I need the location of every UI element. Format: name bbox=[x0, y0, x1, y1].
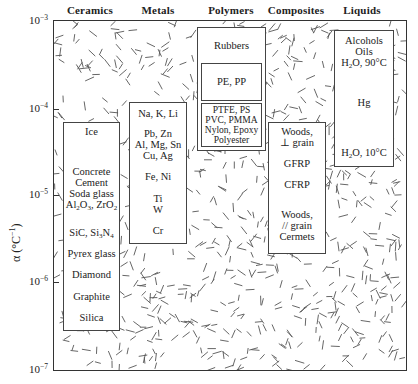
label-cu-ag: Cu, Ag bbox=[130, 150, 186, 162]
label-w: W bbox=[130, 204, 186, 216]
y-tick-mark bbox=[53, 195, 59, 196]
subbox-ptfe-group: PTFE, PS PVC, PMMA Nylon, Epoxy Polyeste… bbox=[201, 103, 262, 147]
y-tick-mark bbox=[53, 109, 59, 110]
category-metals: Metals bbox=[118, 4, 198, 16]
label-sic-si3n4: SiC, Si3N4 bbox=[64, 227, 119, 240]
plot-area: Ice Concrete Cement Soda glass Al2O3, Zr… bbox=[53, 20, 407, 371]
label-cermets: Cermets bbox=[269, 231, 325, 243]
range-box-composites: Woods, ⊥ grain GFRP CFRP Woods, // grain… bbox=[268, 122, 326, 254]
label-cr: Cr bbox=[130, 225, 186, 237]
label-perp-grain: ⊥ grain bbox=[269, 137, 325, 149]
range-box-liquids: Alcohols Oils H2O, 90°C Hg H2O, 10°C bbox=[334, 30, 394, 167]
label-polyester: Polyester bbox=[202, 135, 261, 146]
label-water-10c: H2O, 10°C bbox=[335, 147, 393, 160]
label-pe-pp: PE, PP bbox=[202, 76, 261, 88]
label-graphite: Graphite bbox=[64, 291, 119, 303]
range-box-polymers: Rubbers PE, PP PTFE, PS PVC, PMMA Nylon,… bbox=[197, 27, 266, 151]
label-silica: Silica bbox=[64, 312, 119, 324]
label-pyrex: Pyrex glass bbox=[64, 248, 119, 260]
y-tick-1e-4: 10−4 bbox=[8, 102, 48, 114]
label-alumina-zirconia: Al2O3, ZrO2 bbox=[64, 199, 119, 212]
label-mercury: Hg bbox=[335, 97, 393, 109]
y-tick-mark bbox=[53, 282, 59, 283]
label-ice: Ice bbox=[64, 126, 119, 138]
y-tick-1e-5: 10−5 bbox=[8, 188, 48, 200]
label-water-90c: H2O, 90°C bbox=[335, 57, 393, 70]
label-gfrp: GFRP bbox=[269, 158, 325, 170]
range-box-ceramics: Ice Concrete Cement Soda glass Al2O3, Zr… bbox=[63, 122, 120, 331]
y-tick-1e-6: 10−6 bbox=[8, 275, 48, 287]
label-fe-ni: Fe, Ni bbox=[130, 171, 186, 183]
label-cfrp: CFRP bbox=[269, 179, 325, 191]
y-axis-title: α (°C−1) bbox=[8, 223, 24, 262]
label-rubbers: Rubbers bbox=[198, 40, 265, 52]
subbox-pe-pp: PE, PP bbox=[201, 63, 262, 101]
label-alkali-metals: Na, K, Li bbox=[130, 108, 186, 120]
y-tick-1e-3: 10−3 bbox=[8, 14, 48, 26]
y-tick-1e-7: 10−7 bbox=[8, 363, 48, 375]
category-liquids: Liquids bbox=[322, 4, 402, 16]
label-diamond: Diamond bbox=[64, 269, 119, 281]
range-box-metals: Na, K, Li Pb, Zn Al, Mg, Sn Cu, Ag Fe, N… bbox=[129, 102, 187, 244]
